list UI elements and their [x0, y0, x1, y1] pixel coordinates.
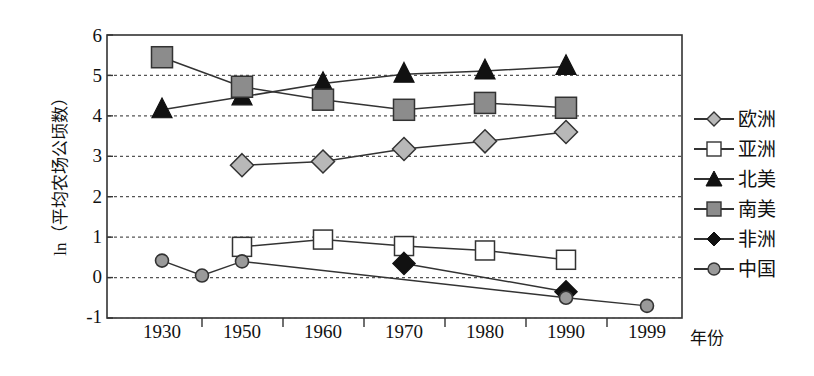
- legend-label-africa: 非洲: [738, 228, 776, 250]
- legend-marker-square-white-icon: [692, 136, 736, 162]
- x-tick-1960: 1960: [288, 322, 358, 342]
- legend-item-asia[interactable]: 亚洲: [692, 134, 814, 164]
- chart-figure: ln（平均农场公顷数） 6 5 4 3 2 1 0 -1 1930 1950 1…: [0, 0, 814, 376]
- legend-marker-diamond-black-icon: [692, 226, 736, 252]
- legend-marker-diamond-gray-icon: [692, 106, 736, 132]
- legend-label-china: 中国: [738, 258, 776, 280]
- x-tick-1980: 1980: [450, 322, 520, 342]
- legend-label-europe: 欧洲: [738, 108, 776, 130]
- x-tick-1990: 1990: [531, 322, 601, 342]
- legend-marker-circle-gray-icon: [692, 256, 736, 282]
- legend-marker-square-gray-icon: [692, 196, 736, 222]
- x-tick-1950: 1950: [207, 322, 277, 342]
- chart-legend: 欧洲 亚洲 北美: [692, 104, 814, 284]
- x-tick-1999: 1999: [612, 322, 682, 342]
- x-axis-title: 年份: [690, 324, 724, 349]
- legend-item-china[interactable]: 中国: [692, 254, 814, 284]
- x-tick-1930: 1930: [127, 322, 197, 342]
- legend-label-south-america: 南美: [738, 198, 776, 220]
- legend-item-south-america[interactable]: 南美: [692, 194, 814, 224]
- x-tick-1970: 1970: [369, 322, 439, 342]
- legend-label-asia: 亚洲: [738, 138, 776, 160]
- legend-marker-triangle-black-icon: [692, 166, 736, 192]
- legend-item-north-america[interactable]: 北美: [692, 164, 814, 194]
- legend-item-africa[interactable]: 非洲: [692, 224, 814, 254]
- legend-item-europe[interactable]: 欧洲: [692, 104, 814, 134]
- legend-label-north-america: 北美: [738, 168, 776, 190]
